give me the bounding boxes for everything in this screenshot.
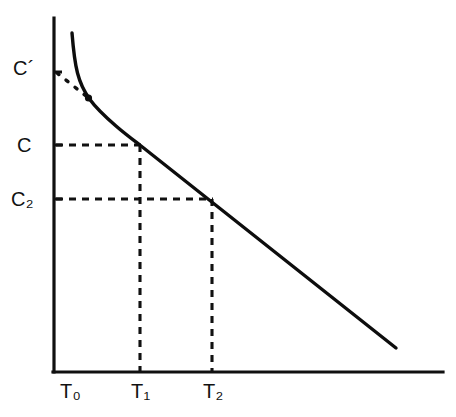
y-axis-label-c-text: C [17, 134, 32, 156]
y-axis-label-c2-text: C₂ [11, 188, 34, 210]
chart-canvas [0, 0, 456, 417]
x-axis-label-t1: T₁ [131, 381, 151, 401]
y-axis-label-c: C [17, 135, 32, 155]
y-axis-label-c-prime-text: C´ [13, 57, 35, 79]
y-axis-label-c-prime: C´ [13, 58, 35, 78]
cost-time-curve [72, 33, 396, 348]
knot-point-marker [85, 94, 92, 101]
x-axis-label-t2-text: T₂ [203, 380, 224, 402]
figure-container: C´ C C₂ T₀ T₁ T₂ [0, 0, 456, 417]
x-axis-label-t0-text: T₀ [60, 380, 81, 402]
x-axis-label-t2: T₂ [203, 381, 224, 401]
x-axis-label-t0: T₀ [60, 381, 81, 401]
x-axis-label-t1-text: T₁ [131, 380, 151, 402]
y-axis-label-c2: C₂ [11, 189, 34, 209]
